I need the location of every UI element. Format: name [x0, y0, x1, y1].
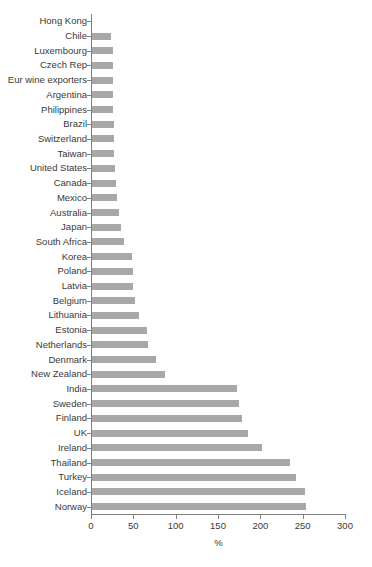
- category-label: Iceland: [0, 487, 87, 497]
- y-axis-tick: [87, 110, 91, 111]
- category-label: Argentina: [0, 90, 87, 100]
- chart-bar: [92, 371, 165, 378]
- y-axis-tick: [87, 183, 91, 184]
- y-axis-tick: [87, 286, 91, 287]
- chart-row: UK: [0, 426, 372, 441]
- category-label: Lithuania: [0, 310, 87, 320]
- chart-bar: [92, 33, 111, 40]
- chart-bar: [92, 503, 306, 510]
- category-label: UK: [0, 428, 87, 438]
- chart-row: Switzerland: [0, 132, 372, 147]
- x-axis-tick-label: 0: [71, 521, 111, 531]
- chart-row: Czech Rep: [0, 58, 372, 73]
- category-label: Japan: [0, 222, 87, 232]
- y-axis-tick: [87, 301, 91, 302]
- y-axis-tick: [87, 463, 91, 464]
- chart-bar: [92, 283, 133, 290]
- chart-row: Taiwan: [0, 146, 372, 161]
- category-label: Thailand: [0, 458, 87, 468]
- chart-row: Latvia: [0, 279, 372, 294]
- chart-bar: [92, 62, 113, 69]
- x-axis-tick: [345, 515, 346, 519]
- chart-row: New Zealand: [0, 367, 372, 382]
- chart-row: Brazil: [0, 117, 372, 132]
- category-label: Philippines: [0, 105, 87, 115]
- y-axis-tick: [87, 448, 91, 449]
- x-axis-tick-label: 250: [283, 521, 323, 531]
- chart-row: India: [0, 382, 372, 397]
- chart-bar: [92, 312, 139, 319]
- x-axis-tick-label: 150: [198, 521, 238, 531]
- x-axis-tick: [218, 515, 219, 519]
- chart-bar: [92, 327, 147, 334]
- chart-row: Mexico: [0, 190, 372, 205]
- chart-row: Eur wine exporters: [0, 73, 372, 88]
- chart-row: Denmark: [0, 352, 372, 367]
- category-label: Chile: [0, 31, 87, 41]
- chart-row: Philippines: [0, 102, 372, 117]
- category-label: Finland: [0, 413, 87, 423]
- chart-bar: [92, 77, 113, 84]
- y-axis-tick: [87, 271, 91, 272]
- chart-row: Lithuania: [0, 308, 372, 323]
- y-axis-tick: [87, 51, 91, 52]
- x-axis-tick-label: 100: [156, 521, 196, 531]
- y-axis-tick: [87, 227, 91, 228]
- chart-bar: [92, 121, 114, 128]
- bar-chart: Hong KongChileLuxembourgCzech RepEur win…: [0, 0, 372, 567]
- x-axis-tick-label: 300: [325, 521, 365, 531]
- y-axis-tick: [87, 345, 91, 346]
- y-axis-tick: [87, 139, 91, 140]
- category-label: Czech Rep: [0, 60, 87, 70]
- chart-bar: [92, 474, 296, 481]
- y-axis-tick: [87, 80, 91, 81]
- category-label: United States: [0, 163, 87, 173]
- category-label: Hong Kong: [0, 16, 87, 26]
- chart-row: Sweden: [0, 396, 372, 411]
- chart-bar: [92, 165, 115, 172]
- category-label: New Zealand: [0, 369, 87, 379]
- y-axis-tick: [87, 492, 91, 493]
- chart-bar: [92, 150, 114, 157]
- y-axis-tick: [87, 154, 91, 155]
- x-axis-tick-label: 200: [240, 521, 280, 531]
- category-label: Mexico: [0, 193, 87, 203]
- y-axis-tick: [87, 124, 91, 125]
- y-axis-tick: [87, 507, 91, 508]
- chart-row: Korea: [0, 249, 372, 264]
- chart-bar: [92, 459, 290, 466]
- y-axis-tick: [87, 198, 91, 199]
- chart-bar: [92, 488, 305, 495]
- chart-row: South Africa: [0, 235, 372, 250]
- chart-bar: [92, 385, 237, 392]
- chart-bar: [92, 297, 135, 304]
- y-axis-tick: [87, 360, 91, 361]
- category-label: Denmark: [0, 355, 87, 365]
- chart-row: Chile: [0, 29, 372, 44]
- chart-rows: Hong KongChileLuxembourgCzech RepEur win…: [0, 14, 372, 514]
- x-axis-tick: [176, 515, 177, 519]
- x-axis-tick: [91, 515, 92, 519]
- category-label: Netherlands: [0, 340, 87, 350]
- chart-bar: [92, 224, 121, 231]
- chart-bar: [92, 194, 117, 201]
- y-axis-tick: [87, 65, 91, 66]
- chart-bar: [92, 209, 119, 216]
- chart-bar: [92, 341, 148, 348]
- chart-row: Thailand: [0, 455, 372, 470]
- category-label: Switzerland: [0, 134, 87, 144]
- chart-row: United States: [0, 161, 372, 176]
- y-axis-tick: [87, 404, 91, 405]
- x-axis-tick: [133, 515, 134, 519]
- y-axis-tick: [87, 257, 91, 258]
- category-label: India: [0, 384, 87, 394]
- y-axis-tick: [87, 315, 91, 316]
- chart-row: Hong Kong: [0, 14, 372, 29]
- y-axis-tick: [87, 242, 91, 243]
- category-label: Brazil: [0, 119, 87, 129]
- chart-row: Canada: [0, 176, 372, 191]
- category-label: South Africa: [0, 237, 87, 247]
- chart-row: Finland: [0, 411, 372, 426]
- category-label: Poland: [0, 266, 87, 276]
- chart-row: Belgium: [0, 293, 372, 308]
